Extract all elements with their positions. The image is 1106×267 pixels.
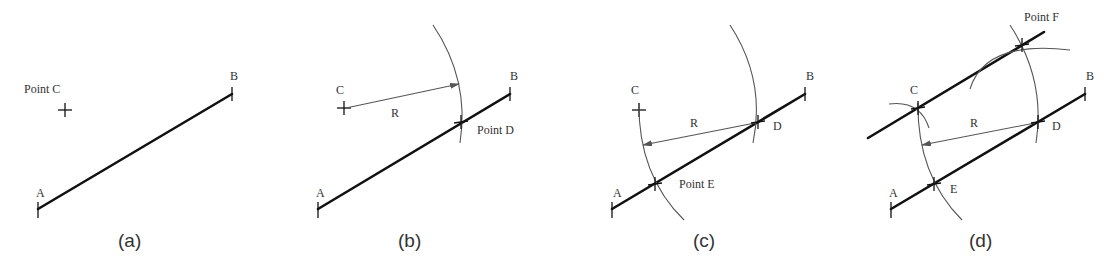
label-d: D: [773, 119, 782, 133]
point-c-cross-icon: [911, 101, 925, 115]
line-ab: [38, 94, 232, 209]
caption-b: (b): [398, 230, 421, 251]
point-d-cross-icon: [751, 115, 765, 129]
label-point-f: Point F: [1024, 10, 1059, 24]
parallel-line-cf: [868, 32, 1044, 138]
label-c: C: [336, 83, 344, 97]
label-d: D: [1052, 119, 1061, 133]
label-r: R: [391, 106, 399, 120]
label-b: B: [806, 69, 814, 83]
caption-a: (a): [118, 230, 141, 251]
panel-d: A B C R D E Point F (d): [868, 10, 1094, 251]
radius-arrow: [346, 84, 459, 108]
label-a: A: [316, 186, 325, 200]
label-r: R: [690, 116, 698, 130]
label-e: E: [950, 182, 957, 196]
construction-diagram: A B Point C (a) A B C R Point D (b): [0, 0, 1106, 267]
label-point-e: Point E: [679, 177, 715, 191]
caption-c: (c): [693, 230, 715, 251]
label-a: A: [36, 186, 45, 200]
label-c: C: [631, 83, 639, 97]
label-b: B: [1086, 69, 1094, 83]
label-point-c: Point C: [24, 82, 60, 96]
panel-b: A B C R Point D (b): [316, 25, 518, 251]
point-c-cross-icon: [58, 103, 72, 117]
point-f-cross-icon: [1015, 38, 1029, 52]
label-point-d: Point D: [477, 123, 514, 137]
arc-from-d: [639, 103, 684, 220]
label-a: A: [889, 186, 898, 200]
line-ab: [891, 94, 1085, 209]
arc-from-d: [918, 103, 962, 220]
caption-d: (d): [969, 230, 992, 251]
panel-a: A B Point C (a): [24, 69, 238, 251]
label-b: B: [510, 69, 518, 83]
label-r: R: [970, 116, 978, 130]
label-b: B: [230, 69, 238, 83]
label-a: A: [613, 186, 622, 200]
label-c: C: [910, 83, 918, 97]
point-c-cross-icon: [337, 101, 351, 115]
line-ab: [612, 94, 805, 209]
panel-c: A B C R D Point E (c): [612, 25, 814, 251]
point-d-cross-icon: [1031, 115, 1045, 129]
line-ab: [318, 94, 510, 209]
